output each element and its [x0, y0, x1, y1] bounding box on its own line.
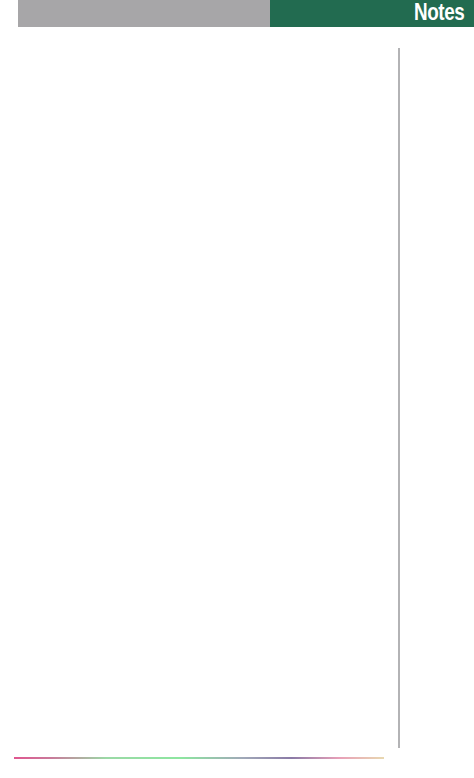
bottom-rule	[14, 757, 384, 759]
section-header-bar: Notes	[18, 0, 474, 27]
page-title: Notes	[414, 0, 464, 26]
notes-writing-area	[18, 40, 388, 750]
header-gray-band	[18, 0, 270, 27]
vertical-margin-rule	[398, 48, 400, 748]
header-green-band: Notes	[270, 0, 474, 27]
